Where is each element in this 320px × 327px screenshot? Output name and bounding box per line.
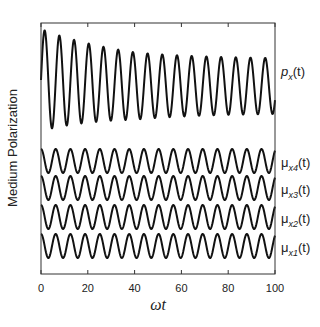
x-axis-label: ωt bbox=[150, 296, 166, 313]
series-line bbox=[41, 149, 275, 173]
series-label: px(t) bbox=[280, 64, 305, 82]
x-tick-label: 60 bbox=[175, 282, 187, 294]
series-labels: px(t)μx4(t)μx3(t)μx2(t)μx1(t) bbox=[280, 64, 310, 258]
chart: 020406080100 px(t)μx4(t)μx3(t)μx2(t)μx1(… bbox=[0, 0, 320, 327]
series-label: μx4(t) bbox=[281, 155, 310, 173]
series-line bbox=[41, 176, 275, 200]
series-line bbox=[41, 205, 275, 229]
series-label: μx2(t) bbox=[281, 211, 310, 229]
x-tick-label: 0 bbox=[38, 282, 44, 294]
x-tick-label: 20 bbox=[82, 282, 94, 294]
x-tick-label: 40 bbox=[128, 282, 140, 294]
curves bbox=[41, 30, 275, 258]
series-label: μx3(t) bbox=[281, 182, 310, 200]
y-axis-label: Medium Polarization bbox=[5, 89, 20, 207]
x-tick-label: 80 bbox=[222, 282, 234, 294]
x-tick-label: 100 bbox=[266, 282, 284, 294]
series-label: μx1(t) bbox=[281, 240, 310, 258]
series-line bbox=[41, 234, 275, 258]
series-line bbox=[41, 30, 275, 128]
